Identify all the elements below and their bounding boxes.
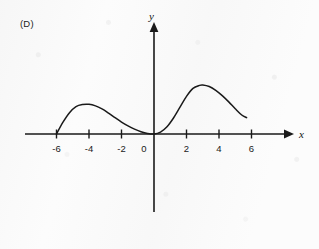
x-tick-label-6: 6 bbox=[249, 143, 254, 154]
x-tick-label-minus6: -6 bbox=[52, 143, 60, 154]
function-curve bbox=[57, 85, 247, 134]
y-axis-arrowhead bbox=[150, 22, 159, 32]
x-tick-label-minus2: -2 bbox=[117, 143, 125, 154]
x-axis-arrowhead bbox=[284, 130, 294, 139]
x-tick-label-minus4: -4 bbox=[85, 143, 93, 154]
x-tick-label-2: 2 bbox=[184, 143, 189, 154]
graph-plot: -6 -4 -2 0 2 4 6 x y bbox=[0, 0, 319, 249]
x-tick-label-4: 4 bbox=[216, 143, 221, 154]
x-tick-label-0: 0 bbox=[141, 143, 146, 154]
x-axis-label: x bbox=[298, 128, 304, 140]
figure-panel: (D) -6 -4 -2 0 2 4 6 x y bbox=[0, 0, 319, 249]
y-axis-label: y bbox=[148, 10, 154, 22]
